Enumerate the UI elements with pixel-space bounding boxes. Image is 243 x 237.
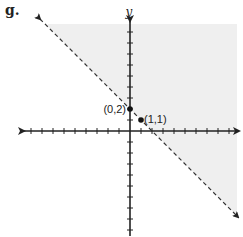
coordinate-plane: (0,2)(1,1) y	[0, 0, 243, 237]
point-label: (1,1)	[144, 113, 167, 125]
data-point	[127, 106, 133, 112]
y-axis-label: y	[125, 5, 133, 19]
point-label: (0,2)	[103, 103, 126, 115]
data-point	[138, 117, 144, 123]
